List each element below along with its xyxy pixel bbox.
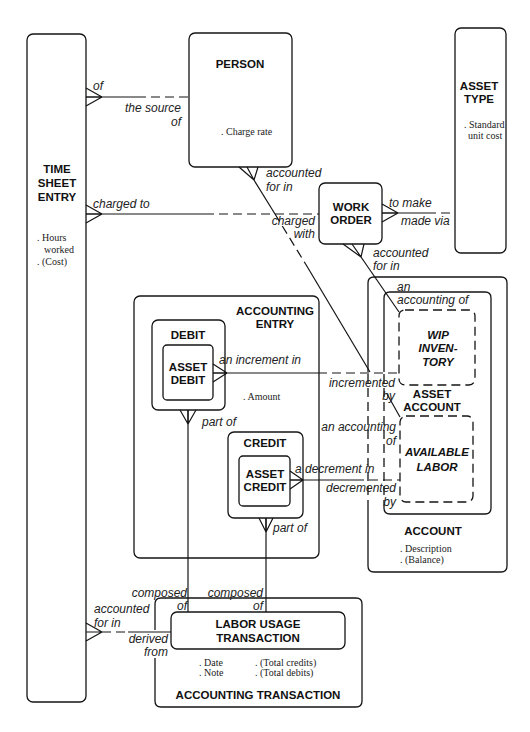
relationship-label: by <box>383 495 397 509</box>
relationship-label: accounted <box>94 602 150 616</box>
person-box <box>189 33 292 167</box>
asset-type-attribute: unit cost <box>468 130 502 141</box>
relationship-label: decremented <box>326 481 396 495</box>
work-order-title: WORK <box>333 201 370 213</box>
available-labor-box <box>400 416 473 502</box>
relationship-label: incremented <box>329 376 395 390</box>
accounting-entry-title: ENTRY <box>256 318 295 330</box>
labor-usage-transaction-title: TRANSACTION <box>216 632 300 644</box>
accounting-transaction-attribute: . (Total debits) <box>255 667 313 679</box>
relationship-label: of <box>177 599 189 613</box>
asset-debit-title: ASSET <box>169 361 207 373</box>
relationship-label: accounted <box>373 246 429 260</box>
relationship-label: of <box>253 599 265 613</box>
crows-foot-icon <box>239 167 258 180</box>
account-title: ACCOUNT <box>404 525 462 537</box>
relationship-label: a decrement in <box>295 462 375 476</box>
time-sheet-entry-attribute: worked <box>44 244 74 255</box>
crows-foot-icon <box>343 244 364 257</box>
relationship-label: for in <box>373 259 400 273</box>
wip-inventory-title: TORY <box>422 356 455 368</box>
relationship-label: composed <box>208 586 264 600</box>
labor-usage-transaction-title: LABOR USAGE <box>216 618 301 630</box>
asset-credit-title: ASSET <box>246 468 284 480</box>
relationship-label: to make <box>389 196 432 210</box>
time-sheet-entry-title: TIME <box>43 163 71 175</box>
accounting-transaction-title: ACCOUNTING TRANSACTION <box>176 689 341 701</box>
relationship-label: part of <box>272 521 309 535</box>
accounting-entry-attribute: . Amount <box>243 391 280 402</box>
asset-account-title: ASSET <box>413 388 451 400</box>
rel-debit-laborusage-line <box>180 410 196 612</box>
relationship-label: charged to <box>93 197 150 211</box>
wip-inventory-title: WIP <box>427 329 449 341</box>
time-sheet-entry-attribute: . (Cost) <box>37 256 67 268</box>
relationship-label: part of <box>201 415 238 429</box>
er-diagram: TIME SHEET ENTRY . Hours worked . (Cost)… <box>0 0 530 732</box>
relationship-label: by <box>382 389 396 403</box>
accounting-transaction-attribute: . Note <box>199 667 224 678</box>
relationship-label: an accounting <box>321 420 396 434</box>
relationship-label: accounting of <box>397 293 470 307</box>
credit-title: CREDIT <box>244 437 287 449</box>
wip-inventory-title: INVEN- <box>419 342 458 354</box>
relationship-label: derived <box>129 632 169 646</box>
relationship-label: charged <box>272 214 316 228</box>
time-sheet-entry-title: ENTRY <box>38 191 77 203</box>
asset-account-title: ACCOUNT <box>403 401 461 413</box>
accounting-entry-title: ACCOUNTING <box>236 305 314 317</box>
account-attribute: . (Balance) <box>400 554 444 566</box>
debit-title: DEBIT <box>171 329 206 341</box>
time-sheet-entry-box <box>27 34 86 702</box>
relationship-label: for in <box>266 180 293 194</box>
available-labor-title: LABOR <box>417 461 459 473</box>
relationship-label: of <box>386 434 398 448</box>
relationship-label: for in <box>94 616 121 630</box>
relationship-label: the source <box>125 101 181 115</box>
relationship-label: composed <box>132 586 188 600</box>
time-sheet-entry-attribute: . Hours <box>37 232 67 243</box>
person-title: PERSON <box>216 58 265 70</box>
relationship-label: from <box>144 645 168 659</box>
work-order-title: ORDER <box>330 214 372 226</box>
relationship-label: with <box>294 227 316 241</box>
relationship-label: of <box>171 115 183 129</box>
asset-credit-title: CREDIT <box>244 481 287 493</box>
asset-type-attribute: . Standard <box>464 119 505 130</box>
person-attribute: . Charge rate <box>221 126 273 137</box>
time-sheet-entry-title: SHEET <box>38 177 76 189</box>
diagram-canvas: TIME SHEET ENTRY . Hours worked . (Cost)… <box>0 0 530 732</box>
relationship-label: made via <box>401 214 450 228</box>
asset-type-title: TYPE <box>464 93 494 105</box>
available-labor-title: AVAILABLE <box>404 446 469 458</box>
account-attribute: . Description <box>400 543 452 554</box>
relationship-label: an increment in <box>219 353 301 367</box>
asset-debit-title: DEBIT <box>171 374 206 386</box>
asset-type-title: ASSET <box>460 80 498 92</box>
relationship-label: accounted <box>266 166 322 180</box>
relationship-label: of <box>93 79 105 93</box>
relationship-label: an <box>397 280 411 294</box>
